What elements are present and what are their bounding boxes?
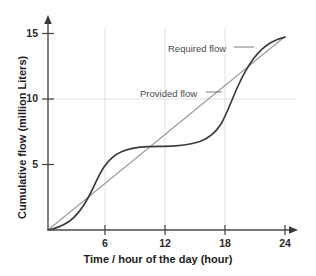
x-tick-label-12: 12 [153, 237, 177, 249]
y-axis-title: Cumulative flow (million Liters) [16, 56, 28, 219]
plot-area [0, 0, 316, 276]
y-axis-arrowhead [44, 15, 52, 24]
cumulative-flow-chart: 15 10 5 6 12 18 24 Time / hour of the da… [0, 0, 316, 276]
annotation-required-flow: Required flow [168, 43, 226, 54]
x-tick-label-18: 18 [213, 237, 237, 249]
x-axis-title: Time / hour of the day (hour) [0, 253, 316, 265]
y-tick-label-15: 15 [16, 27, 38, 39]
x-axis-arrowhead [289, 226, 298, 234]
annotation-provided-flow: Provided flow [140, 88, 197, 99]
x-tick-label-6: 6 [93, 237, 117, 249]
x-tick-label-24: 24 [273, 237, 297, 249]
